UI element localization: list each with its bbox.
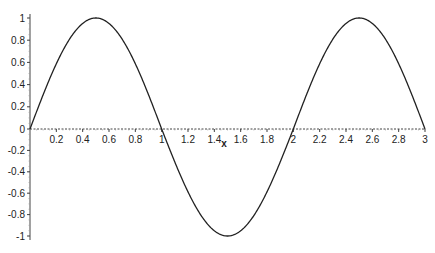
x-tick-label: 1.4 [207, 134, 221, 145]
y-tick-label: 0.2 [11, 101, 25, 112]
x-tick-label: 2.6 [365, 134, 379, 145]
x-axis: 0.20.40.60.811.21.41.61.822.22.42.62.83 [30, 129, 428, 145]
x-tick-label: 0.6 [102, 134, 116, 145]
x-tick-label: 2 [291, 134, 297, 145]
y-tick-label: 0 [19, 124, 25, 135]
y-tick-label: 1 [19, 13, 25, 24]
x-tick-label: 1.2 [181, 134, 195, 145]
y-tick-label: 0.4 [11, 79, 25, 90]
sine-curve [30, 18, 425, 236]
y-tick-label: 0.8 [11, 35, 25, 46]
y-tick-label: 0.6 [11, 57, 25, 68]
x-tick-label: 3 [422, 134, 428, 145]
x-tick-label: 2.2 [313, 134, 327, 145]
x-tick-label: 2.4 [339, 134, 353, 145]
y-tick-label: -0.2 [8, 145, 26, 156]
x-tick-label: 1.8 [260, 134, 274, 145]
x-tick-label: 0.8 [128, 134, 142, 145]
x-tick-label: 0.4 [76, 134, 90, 145]
x-axis-label: x [221, 138, 227, 149]
y-tick-label: -0.8 [8, 209, 26, 220]
x-tick-label: 2.8 [392, 134, 406, 145]
y-tick-label: -1 [16, 231, 25, 242]
y-tick-label: -0.4 [8, 166, 26, 177]
x-tick-label: 1.6 [234, 134, 248, 145]
line-chart: 10.80.60.40.20-0.2-0.4-0.6-0.8-1 0.20.40… [0, 0, 435, 253]
y-tick-label: -0.6 [8, 188, 26, 199]
x-tick-label: 0.2 [49, 134, 63, 145]
y-axis: 10.80.60.40.20-0.2-0.4-0.6-0.8-1 [8, 13, 30, 242]
